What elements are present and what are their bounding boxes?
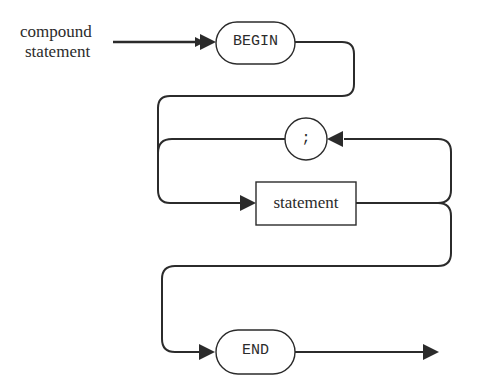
begin-label: BEGIN (216, 33, 295, 50)
end-label: END (216, 342, 295, 359)
statement-exit-path (344, 139, 451, 203)
entry-label-line2: statement (25, 42, 90, 62)
begin-to-loop-path (158, 42, 354, 203)
semicolon-to-statement-path (158, 139, 285, 153)
entry-label-line1: compound (20, 22, 92, 42)
semicolon-label: ; (285, 130, 327, 147)
statement-label: statement (256, 193, 356, 213)
